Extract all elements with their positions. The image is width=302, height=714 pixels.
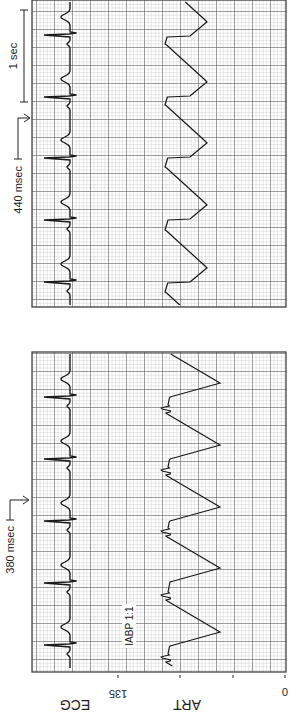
interval-marker-left: 380 msec: [4, 496, 29, 574]
scale-bar-1sec: 1 sec: [7, 10, 28, 102]
panel-iabp: IABP 1:1 380 msec: [4, 352, 286, 672]
interval-label-440: 440 msec: [12, 166, 24, 214]
tick-135: 135: [109, 688, 127, 700]
interval-marker-right: 440 msec: [12, 114, 30, 214]
ecg-axis-label: ECG: [60, 697, 90, 713]
art-axis-label: ART: [173, 697, 201, 713]
rotated-chart: IABP 1:1 380 msec 440 msec: [0, 0, 302, 714]
panel-no-iabp: 440 msec 1 sec: [7, 0, 286, 307]
interval-label-380: 380 msec: [4, 526, 16, 574]
iabp-annotation: IABP 1:1: [124, 606, 135, 646]
y-axis: ECG ART 135 0: [60, 675, 288, 713]
ecg-art-strip-chart: IABP 1:1 380 msec 440 msec: [0, 0, 302, 714]
scale-label-1sec: 1 sec: [7, 42, 19, 69]
tick-0: 0: [282, 686, 288, 698]
